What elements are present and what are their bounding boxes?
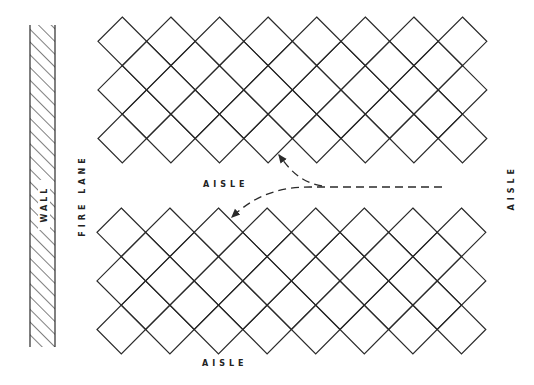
rack-cell — [341, 66, 390, 115]
rack-cell — [316, 281, 365, 330]
rack-cell — [340, 305, 389, 354]
rack-cell — [147, 66, 196, 115]
rack-cell — [98, 114, 147, 163]
rack-cell — [437, 208, 486, 257]
rack-cell — [195, 66, 244, 115]
rack-cell — [438, 17, 487, 66]
rack-cell — [364, 232, 413, 281]
rack-cell — [291, 305, 340, 354]
rack-cell — [146, 257, 195, 306]
rack-cell — [219, 232, 268, 281]
rack-cell — [292, 17, 341, 66]
rack-cell — [147, 114, 196, 163]
rack-cell — [291, 257, 340, 306]
rack-cell — [390, 66, 439, 115]
rack-cell — [292, 114, 341, 163]
rack-cell — [437, 257, 486, 306]
rack-cell — [243, 208, 292, 257]
rack-cell — [194, 305, 243, 354]
arrow-to-upper-block — [279, 155, 322, 186]
rack-cell — [98, 17, 147, 66]
rack-cell — [220, 41, 269, 90]
rack-cell — [390, 17, 439, 66]
rack-cell — [122, 90, 171, 139]
rack-cell — [121, 232, 170, 281]
rack-cell — [146, 208, 195, 257]
rack-cell — [389, 208, 438, 257]
rack-cell — [268, 90, 317, 139]
rack-cell — [317, 41, 366, 90]
rack-cell — [340, 257, 389, 306]
rack-cell — [291, 208, 340, 257]
rack-cell — [390, 114, 439, 163]
rack-cell — [146, 305, 195, 354]
rack-cell — [364, 281, 413, 330]
aisle-right-label: AISLE — [507, 167, 516, 211]
rack-cell — [195, 17, 244, 66]
rack-cell — [414, 90, 463, 139]
rack-cell — [97, 208, 146, 257]
rack-cell — [414, 41, 463, 90]
rack-cell — [122, 41, 171, 90]
rack-cell — [267, 232, 316, 281]
rack-cell — [389, 257, 438, 306]
rack-cell — [341, 114, 390, 163]
rack-cell — [194, 208, 243, 257]
rack-cell — [244, 66, 293, 115]
rack-cell — [97, 305, 146, 354]
rack-cell — [438, 114, 487, 163]
lower-storage-block — [97, 208, 486, 354]
rack-cell — [171, 90, 220, 139]
rack-cell — [244, 17, 293, 66]
rack-cell — [97, 257, 146, 306]
rack-cell — [438, 66, 487, 115]
rack-cell — [170, 232, 219, 281]
rack-cell — [316, 232, 365, 281]
flow-arrows — [232, 155, 442, 217]
rack-cell — [243, 257, 292, 306]
rack-cell — [413, 281, 462, 330]
rack-cell — [194, 257, 243, 306]
fire-lane-label: FIRE LANE — [78, 152, 87, 240]
rack-cell — [389, 305, 438, 354]
dashed-main-path — [232, 187, 442, 217]
aisle-middle-label: AISLE — [203, 180, 249, 189]
rack-cell — [243, 305, 292, 354]
rack-cell — [121, 281, 170, 330]
rack-cell — [171, 41, 220, 90]
rack-cell — [292, 66, 341, 115]
rack-cell — [413, 232, 462, 281]
rack-cell — [219, 281, 268, 330]
rack-cell — [170, 281, 219, 330]
rack-cell — [268, 41, 317, 90]
aisle-bottom-label: AISLE — [202, 359, 248, 368]
rack-cell — [437, 305, 486, 354]
rack-cell — [267, 281, 316, 330]
rack-cell — [147, 17, 196, 66]
wall-label: WALL — [40, 187, 49, 223]
rack-cell — [317, 90, 366, 139]
rack-cell — [341, 17, 390, 66]
rack-cell — [365, 41, 414, 90]
rack-cell — [244, 114, 293, 163]
upper-storage-block — [98, 17, 487, 163]
rack-cell — [365, 90, 414, 139]
rack-cell — [220, 90, 269, 139]
rack-cell — [195, 114, 244, 163]
rack-cell — [340, 208, 389, 257]
rack-cell — [98, 66, 147, 115]
